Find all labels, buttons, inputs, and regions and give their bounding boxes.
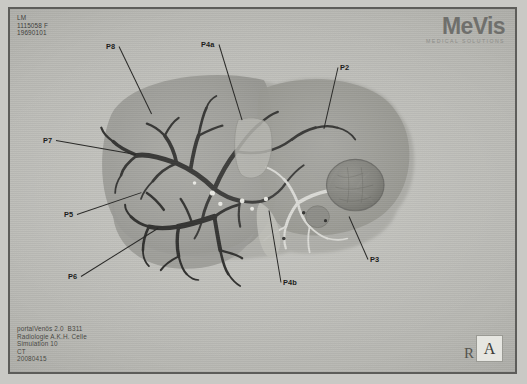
liver-lesion <box>326 159 384 210</box>
orientation-right-label: R <box>464 345 474 362</box>
screenshot-root: LM 1115058 F 19690101 portalVenös 2.0 B3… <box>0 0 527 384</box>
vena-cava-segment <box>235 118 272 178</box>
annotation-label-p4b: P4b <box>283 278 297 287</box>
annotation-label-p2: P2 <box>340 63 349 72</box>
orientation-anterior-label: A <box>484 341 496 357</box>
image-frame: LM 1115058 F 19690101 portalVenös 2.0 B3… <box>8 7 517 374</box>
annotation-label-p8: P8 <box>106 42 115 51</box>
liver-lesion-secondary <box>306 206 330 228</box>
liver-volume-rendering <box>10 9 515 372</box>
patient-metadata: LM 1115058 F 19690101 <box>17 14 48 37</box>
logo-wordmark: MeVis <box>426 15 505 38</box>
annotation-label-p3: P3 <box>370 255 379 264</box>
annotation-label-p5: P5 <box>64 210 73 219</box>
orientation-anterior-box: A <box>476 335 503 362</box>
orientation-marker: R A <box>464 335 503 362</box>
mevis-logo: MeVis MEDICAL SOLUTIONS <box>426 15 505 44</box>
annotation-label-p7: P7 <box>43 136 52 145</box>
study-metadata: portalVenös 2.0 B311 Radiologie A.K.H. C… <box>17 325 87 363</box>
annotation-label-p4a: P4a <box>201 40 214 49</box>
render-viewport: LM 1115058 F 19690101 portalVenös 2.0 B3… <box>10 9 515 372</box>
annotation-label-p6: P6 <box>68 272 77 281</box>
logo-tagline: MEDICAL SOLUTIONS <box>426 38 505 44</box>
